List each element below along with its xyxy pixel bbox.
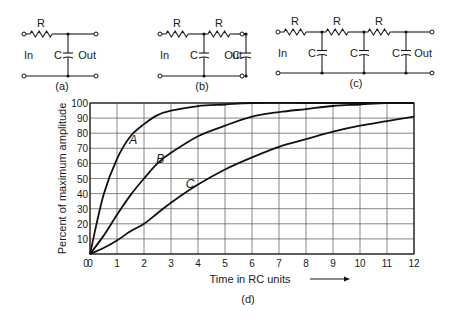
- y-tick-label: 50: [77, 174, 89, 185]
- input-terminal: [22, 32, 26, 36]
- capacitor-label: C: [392, 47, 400, 59]
- y-tick-label: 10: [77, 234, 89, 245]
- output-terminal: [240, 74, 244, 78]
- y-axis-label: Percent of maximum amplitude: [56, 103, 68, 255]
- capacitor-label: C: [308, 47, 316, 59]
- input-terminal: [158, 32, 162, 36]
- arrowhead-icon: [344, 277, 350, 282]
- output-terminal: [240, 32, 244, 36]
- y-tick-label: 40: [77, 189, 89, 200]
- capacitor-label: C: [54, 49, 62, 61]
- y-tick-label: 0: [83, 258, 89, 269]
- curve-label-B: B: [156, 152, 164, 166]
- output-terminal: [94, 74, 98, 78]
- chart-caption: (d): [241, 293, 254, 305]
- output-label: Out: [78, 49, 96, 61]
- y-tick-label: 80: [77, 128, 89, 139]
- resistor-icon: [366, 29, 392, 35]
- resistor-label: R: [375, 15, 383, 27]
- input-label: In: [24, 49, 33, 61]
- x-tick-label: 4: [195, 258, 201, 269]
- x-tick-label: 2: [141, 258, 147, 269]
- x-axis-label: Time in RC units: [210, 273, 291, 285]
- capacitor-label: C: [190, 49, 198, 61]
- y-tick-label: 60: [77, 158, 89, 169]
- circuit-caption: (c): [350, 77, 363, 89]
- resistor-label: R: [215, 17, 223, 29]
- rc-circuits: RCInOut(a)RCRCInOut(b)RCRCRCInOut(c): [22, 15, 434, 92]
- input-terminal: [276, 30, 280, 34]
- x-tick-label: 10: [354, 258, 366, 269]
- input-terminal: [276, 71, 280, 75]
- circuit-caption: (a): [55, 80, 68, 92]
- x-tick-label: 1: [114, 258, 120, 269]
- capacitor-label: C: [350, 47, 358, 59]
- figure-canvas: RCInOut(a)RCRCInOut(b)RCRCRCInOut(c) 012…: [0, 0, 458, 320]
- x-tick-label: 3: [168, 258, 174, 269]
- y-tick-label: 100: [71, 98, 88, 109]
- output-label: Out: [224, 49, 242, 61]
- curve-label-A: A: [128, 133, 137, 147]
- y-tick-label: 20: [77, 219, 89, 230]
- resistor-label: R: [333, 15, 341, 27]
- resistor-label: R: [37, 17, 45, 29]
- x-tick-label: 9: [330, 258, 336, 269]
- x-tick-label: 11: [382, 258, 393, 269]
- output-terminal: [94, 32, 98, 36]
- output-label: Out: [414, 47, 432, 59]
- resistor-icon: [206, 31, 232, 37]
- x-tick-label: 7: [276, 258, 282, 269]
- x-tick-label: 6: [249, 258, 255, 269]
- x-tick-label: 5: [222, 258, 228, 269]
- resistor-label: R: [173, 17, 181, 29]
- resistor-icon: [28, 31, 54, 37]
- curve-label-C: C: [186, 177, 195, 191]
- x-tick-label: 12: [408, 258, 420, 269]
- input-label: In: [278, 47, 287, 59]
- y-tick-label: 90: [77, 113, 89, 124]
- resistor-icon: [324, 29, 350, 35]
- input-terminal: [22, 74, 26, 78]
- y-tick-label: 30: [77, 204, 89, 215]
- output-terminal: [430, 71, 434, 75]
- step-response-chart: 01234567891011120102030405060708090100AB…: [56, 98, 420, 305]
- input-terminal: [158, 74, 162, 78]
- resistor-icon: [282, 29, 308, 35]
- chart-grid: [90, 103, 414, 254]
- circuit-a: RCInOut(a): [22, 17, 98, 92]
- circuit-b: RCRCInOut(b): [158, 17, 251, 92]
- y-tick-label: 70: [77, 143, 89, 154]
- resistor-label: R: [291, 15, 299, 27]
- resistor-icon: [164, 31, 190, 37]
- circuit-caption: (b): [195, 80, 208, 92]
- x-tick-label: 8: [303, 258, 309, 269]
- output-terminal: [430, 30, 434, 34]
- input-label: In: [160, 49, 169, 61]
- circuit-c: RCRCRCInOut(c): [276, 15, 434, 89]
